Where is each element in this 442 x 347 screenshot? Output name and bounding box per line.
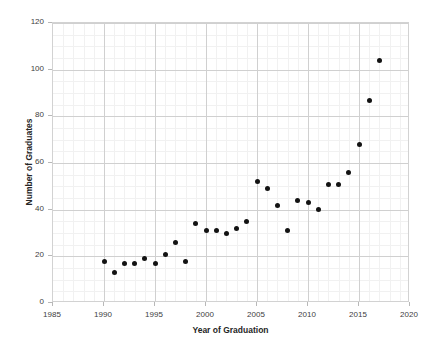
data-point <box>244 219 249 224</box>
gridline-minor-vertical <box>318 23 319 301</box>
data-point <box>234 226 239 231</box>
x-axis-tick-mark <box>307 302 308 306</box>
data-point <box>142 256 147 261</box>
gridline-minor-vertical <box>114 23 115 301</box>
x-axis-tick-mark <box>409 302 410 306</box>
data-point <box>112 270 117 275</box>
x-axis-tick-mark <box>52 302 53 306</box>
gridline-minor-vertical <box>84 23 85 301</box>
gridline-minor-vertical <box>328 23 329 301</box>
x-axis-tick-mark <box>358 302 359 306</box>
data-point <box>336 182 341 187</box>
data-point <box>204 228 209 233</box>
x-axis-tick-label: 2015 <box>336 310 380 319</box>
y-axis-tick-mark <box>48 69 52 70</box>
data-point <box>326 182 331 187</box>
gridline-major-horizontal <box>53 210 408 211</box>
gridline-minor-vertical <box>165 23 166 301</box>
data-point <box>275 203 280 208</box>
gridline-minor-horizontal <box>53 198 408 199</box>
gridline-minor-vertical <box>247 23 248 301</box>
gridline-minor-horizontal <box>53 233 408 234</box>
gridline-major-horizontal <box>53 23 408 24</box>
gridline-minor-vertical <box>400 23 401 301</box>
y-axis-tick-mark <box>48 162 52 163</box>
gridline-minor-vertical <box>124 23 125 301</box>
data-point <box>265 186 270 191</box>
data-point <box>214 228 219 233</box>
data-point <box>316 207 321 212</box>
data-point <box>357 142 362 147</box>
gridline-minor-vertical <box>267 23 268 301</box>
gridline-minor-horizontal <box>53 140 408 141</box>
x-axis-tick-mark <box>205 302 206 306</box>
gridline-minor-horizontal <box>53 221 408 222</box>
gridline-major-horizontal <box>53 163 408 164</box>
gridline-minor-vertical <box>369 23 370 301</box>
gridline-major-vertical <box>206 23 207 301</box>
data-point <box>122 261 127 266</box>
gridline-minor-vertical <box>390 23 391 301</box>
gridline-minor-horizontal <box>53 128 408 129</box>
x-axis-tick-label: 1990 <box>81 310 125 319</box>
gridline-minor-horizontal <box>53 291 408 292</box>
gridline-minor-vertical <box>288 23 289 301</box>
gridline-minor-horizontal <box>53 186 408 187</box>
gridline-minor-vertical <box>73 23 74 301</box>
x-axis-tick-label: 2020 <box>387 310 431 319</box>
data-point <box>193 221 198 226</box>
data-point <box>163 252 168 257</box>
data-point <box>183 259 188 264</box>
gridline-minor-vertical <box>175 23 176 301</box>
x-axis-tick-label: 2000 <box>183 310 227 319</box>
y-axis-tick-mark <box>48 255 52 256</box>
data-point <box>224 231 229 236</box>
gridline-minor-vertical <box>237 23 238 301</box>
x-axis-tick-mark <box>154 302 155 306</box>
x-axis-tick-label: 1995 <box>132 310 176 319</box>
gridline-minor-horizontal <box>53 245 408 246</box>
data-point <box>306 200 311 205</box>
gridline-minor-vertical <box>216 23 217 301</box>
plot-area <box>52 22 409 302</box>
gridline-minor-vertical <box>94 23 95 301</box>
y-axis-tick-mark <box>48 115 52 116</box>
gridline-major-horizontal <box>53 116 408 117</box>
gridline-minor-horizontal <box>53 151 408 152</box>
gridline-major-horizontal <box>53 256 408 257</box>
gridline-minor-horizontal <box>53 175 408 176</box>
data-point <box>102 259 107 264</box>
data-point <box>295 198 300 203</box>
gridline-major-vertical <box>308 23 309 301</box>
gridline-minor-vertical <box>379 23 380 301</box>
x-axis-tick-mark <box>256 302 257 306</box>
gridline-minor-vertical <box>298 23 299 301</box>
gridline-major-vertical <box>257 23 258 301</box>
gridline-minor-vertical <box>135 23 136 301</box>
data-point <box>153 261 158 266</box>
gridline-minor-vertical <box>349 23 350 301</box>
gridline-minor-horizontal <box>53 268 408 269</box>
data-point <box>173 240 178 245</box>
data-point <box>132 261 137 266</box>
x-axis-tick-label: 2005 <box>234 310 278 319</box>
gridline-minor-horizontal <box>53 58 408 59</box>
gridline-minor-horizontal <box>53 81 408 82</box>
x-axis-tick-mark <box>103 302 104 306</box>
gridline-minor-horizontal <box>53 280 408 281</box>
gridline-major-horizontal <box>53 70 408 71</box>
scatter-chart: 0204060801001201985199019952000200520102… <box>0 0 442 347</box>
gridline-minor-vertical <box>277 23 278 301</box>
gridline-minor-horizontal <box>53 35 408 36</box>
y-axis-tick-mark <box>48 22 52 23</box>
gridline-minor-vertical <box>226 23 227 301</box>
x-axis-tick-label: 2010 <box>285 310 329 319</box>
y-axis-title: Number of Graduates <box>22 22 36 302</box>
gridline-major-vertical <box>359 23 360 301</box>
x-axis-tick-label: 1985 <box>30 310 74 319</box>
y-axis-tick-mark <box>48 209 52 210</box>
data-point <box>377 58 382 63</box>
gridline-minor-vertical <box>196 23 197 301</box>
gridline-minor-horizontal <box>53 105 408 106</box>
gridline-minor-vertical <box>63 23 64 301</box>
